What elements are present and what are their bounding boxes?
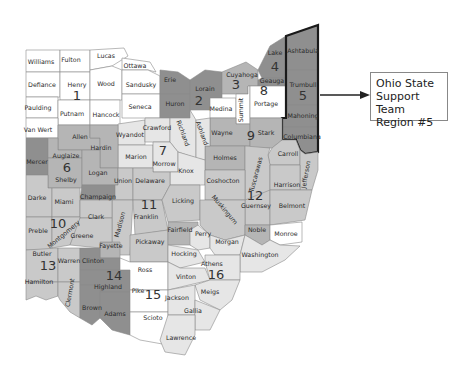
label-mercer: Mercer <box>26 158 48 165</box>
label-fayette: Fayette <box>99 242 122 250</box>
region-5-callout-box: Ohio State Support Team Region #5 <box>370 72 448 121</box>
label-washington: Washington <box>241 251 278 259</box>
callout-line-3: Region #5 <box>376 116 442 129</box>
label-huron: Huron <box>165 100 184 107</box>
county-huron[interactable] <box>160 94 190 120</box>
label-lucas: Lucas <box>97 52 115 59</box>
region-number-10: 10 <box>50 216 67 231</box>
label-preble: Preble <box>28 227 48 234</box>
label-shelby: Shelby <box>55 176 77 184</box>
region-number-14: 14 <box>106 268 123 283</box>
county-union[interactable] <box>115 168 133 200</box>
label-logan: Logan <box>88 169 107 177</box>
county-pickaway[interactable] <box>130 230 168 262</box>
region-number-2: 2 <box>195 93 203 108</box>
label-warren: Warren <box>58 257 80 264</box>
label-trumbull: Trumbull <box>288 81 316 88</box>
callout-line-1: Ohio State <box>376 77 442 90</box>
label-ross: Ross <box>138 266 153 273</box>
label-sandusky: Sandusky <box>126 81 157 89</box>
label-miami: Miami <box>55 198 74 205</box>
label-perry: Perry <box>195 230 212 238</box>
label-butler: Butler <box>33 250 52 257</box>
label-hardin: Hardin <box>91 144 112 151</box>
label-wyandot: Wyandot <box>116 131 145 139</box>
label-clinton: Clinton <box>82 257 104 264</box>
region-number-11: 11 <box>141 197 158 212</box>
label-vinton: Vinton <box>176 273 196 280</box>
region-number-6: 6 <box>63 160 71 175</box>
label-coshocton: Coshocton <box>206 177 239 184</box>
label-fairfield: Fairfield <box>168 226 193 233</box>
label-darke: Darke <box>28 194 47 201</box>
label-meigs: Meigs <box>201 288 219 296</box>
county-warren[interactable] <box>58 248 80 282</box>
label-delaware: Delaware <box>135 177 165 184</box>
label-champaign: Champaign <box>80 193 116 201</box>
label-hocking: Hocking <box>171 250 196 258</box>
region-number-8: 8 <box>260 83 268 98</box>
region-number-12: 12 <box>247 188 264 203</box>
region-number-9: 9 <box>247 128 255 143</box>
label-morgan: Morgan <box>215 238 239 246</box>
label-knox: Knox <box>178 167 194 174</box>
label-belmont: Belmont <box>279 202 306 209</box>
label-lake: Lake <box>268 49 283 56</box>
region-number-15: 15 <box>145 287 162 302</box>
label-hancock: Hancock <box>92 111 119 118</box>
callout-line-2: Support Team <box>376 90 442 116</box>
label-union: Union <box>114 177 132 184</box>
region-number-13: 13 <box>40 258 57 273</box>
region-number-1: 1 <box>73 88 81 103</box>
label-wood: Wood <box>97 80 115 87</box>
label-monroe: Monroe <box>274 230 298 237</box>
label-ottawa: Ottawa <box>124 62 147 69</box>
region-number-7: 7 <box>159 143 167 158</box>
label-vanwert: Van Wert <box>24 126 53 133</box>
county-coshocton[interactable] <box>205 170 245 200</box>
label-greene: Greene <box>71 232 94 239</box>
label-portage: Portage <box>254 100 278 108</box>
label-athens: Athens <box>201 260 223 267</box>
region-number-5: 5 <box>299 88 307 103</box>
label-erie: Erie <box>164 76 176 83</box>
label-harrison: Harrison <box>274 181 301 188</box>
label-paulding: Paulding <box>25 104 52 112</box>
label-brown: Brown <box>82 304 102 311</box>
county-mercer[interactable] <box>26 138 48 175</box>
label-williams: Williams <box>28 58 54 65</box>
label-marion: Marion <box>125 153 146 160</box>
label-franklin: Franklin <box>134 213 159 220</box>
label-hamilton: Hamilton <box>25 278 54 285</box>
label-morrow: Morrow <box>152 160 175 167</box>
label-carroll: Carroll <box>278 150 299 157</box>
label-seneca: Seneca <box>128 103 151 110</box>
label-scioto: Scioto <box>143 314 163 321</box>
label-pike: Pike <box>132 287 145 294</box>
label-gallia: Gallia <box>184 307 202 314</box>
label-pickaway: Pickaway <box>136 238 165 246</box>
label-guernsey: Guernsey <box>241 202 271 210</box>
label-columbiana: Columbiana <box>283 133 321 140</box>
label-noble: Noble <box>248 226 266 233</box>
label-ashtabula: Ashtabula <box>287 47 319 54</box>
label-allen: Allen <box>72 133 88 140</box>
label-medina: Medina <box>210 105 233 112</box>
label-mahoning: Mahoning <box>288 112 319 120</box>
region-number-4: 4 <box>271 59 279 74</box>
label-holmes: Holmes <box>213 154 237 161</box>
label-putnam: Putnam <box>60 110 84 117</box>
label-fulton: Fulton <box>61 56 80 63</box>
label-lorain: Lorain <box>195 85 214 92</box>
label-summit: Summit <box>237 97 244 122</box>
label-jackson: Jackson <box>164 294 189 302</box>
label-licking: Licking <box>172 197 194 205</box>
label-clark: Clark <box>88 213 105 220</box>
label-lawrence: Lawrence <box>166 334 196 341</box>
callout-arrow <box>320 91 370 99</box>
label-wayne: Wayne <box>211 129 232 137</box>
region-number-3: 3 <box>232 77 240 92</box>
arrow-head-icon <box>360 91 370 99</box>
label-auglaize: Auglaize <box>53 152 80 160</box>
label-defiance: Defiance <box>28 81 56 88</box>
